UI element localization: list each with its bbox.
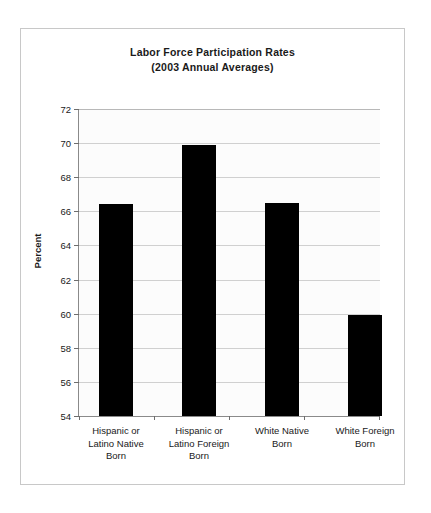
ytick-mark-70	[74, 143, 79, 144]
ytick-mark-68	[74, 177, 79, 178]
ytick-mark-62	[74, 280, 79, 281]
chart-title: Labor Force Participation Rates (2003 An…	[21, 45, 404, 75]
xtick-label-white-foreign-born: White Foreign Born	[322, 425, 408, 450]
ytick-label-68: 68	[60, 172, 71, 183]
xtick-mark-0	[79, 416, 80, 420]
ytick-label-70: 70	[60, 138, 71, 149]
ytick-label-54: 54	[60, 411, 71, 422]
gridline-70	[79, 143, 380, 144]
ytick-label-72: 72	[60, 104, 71, 115]
xtick-mark-1	[154, 416, 155, 420]
ytick-mark-72	[74, 109, 79, 110]
gridline-68	[79, 177, 380, 178]
xtick-mark-2	[229, 416, 230, 420]
xtick-mark-3	[304, 416, 305, 420]
ytick-label-58: 58	[60, 342, 71, 353]
bar-hispanic-latino-foreign-born[interactable]	[182, 145, 216, 416]
bar-white-foreign-born[interactable]	[348, 315, 382, 416]
xtick-label-hispanic-latino-native-born: Hispanic or Latino Native Born	[73, 425, 159, 463]
xtick-label-hispanic-latino-foreign-born: Hispanic or Latino Foreign Born	[156, 425, 242, 463]
ytick-label-62: 62	[60, 274, 71, 285]
gridline-72	[79, 109, 380, 110]
ytick-mark-58	[74, 348, 79, 349]
chart-title-line-1: Labor Force Participation Rates	[21, 45, 404, 60]
plot-area: 72 70 68 66 64 62 60 58 56 54	[78, 109, 380, 417]
xtick-mark-4	[379, 416, 380, 420]
ytick-mark-56	[74, 382, 79, 383]
bar-white-native-born[interactable]	[265, 203, 299, 416]
xtick-label-white-native-born: White Native Born	[239, 425, 325, 450]
ytick-mark-66	[74, 211, 79, 212]
ytick-label-66: 66	[60, 206, 71, 217]
y-axis-label: Percent	[32, 234, 43, 269]
chart-title-line-2: (2003 Annual Averages)	[21, 60, 404, 75]
ytick-label-60: 60	[60, 308, 71, 319]
ytick-mark-60	[74, 314, 79, 315]
chart-frame: Labor Force Participation Rates (2003 An…	[20, 28, 405, 485]
ytick-label-56: 56	[60, 376, 71, 387]
ytick-label-64: 64	[60, 240, 71, 251]
bar-hispanic-latino-native-born[interactable]	[99, 204, 133, 416]
ytick-mark-64	[74, 245, 79, 246]
